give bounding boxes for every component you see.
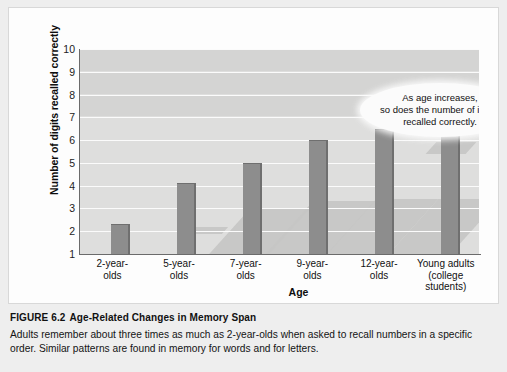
x-tick-7-year-olds: 7-year- olds xyxy=(212,258,279,306)
gridline-2 xyxy=(79,231,479,232)
bar-2-year-olds[interactable] xyxy=(111,224,130,254)
gridline-9 xyxy=(79,72,479,73)
x-tick-5-year-olds: 5-year- olds xyxy=(146,258,213,306)
y-tick-5: 5 xyxy=(47,158,75,168)
bar-12-year-olds[interactable] xyxy=(375,129,394,254)
y-tick-2: 2 xyxy=(47,226,75,236)
bar-7-year-olds[interactable] xyxy=(243,163,262,254)
x-axis-line xyxy=(79,254,481,255)
figure-title: Age-Related Changes in Memory Span xyxy=(69,312,256,323)
y-tick-1: 1 xyxy=(47,249,75,259)
figure-container: Number of digits recalled correctly 10 9… xyxy=(0,0,507,372)
gridline-6 xyxy=(79,140,479,141)
gridline-4 xyxy=(79,186,479,187)
y-tick-8: 8 xyxy=(47,90,75,100)
x-tick-12-year-olds: 12-year- olds xyxy=(346,258,413,306)
gridline-3 xyxy=(79,208,479,209)
bar-9-year-olds[interactable] xyxy=(309,140,328,254)
figure-number: FIGURE 6.2 xyxy=(10,312,65,323)
annotation-callout-text: As age increases, so does the number of … xyxy=(376,92,479,128)
gridline-5 xyxy=(79,163,479,164)
chart-panel: Number of digits recalled correctly 10 9… xyxy=(8,7,499,304)
x-axis-title: Age xyxy=(53,286,507,298)
gridline-10 xyxy=(79,49,479,50)
y-axis-ticks: 10 9 8 7 6 5 4 3 2 1 xyxy=(45,49,75,254)
y-tick-10: 10 xyxy=(47,44,75,54)
figure-caption: FIGURE 6.2Age-Related Changes in Memory … xyxy=(8,312,499,366)
y-tick-4: 4 xyxy=(47,181,75,191)
x-axis-ticks: 2-year- olds 5-year- olds 7-year- olds 9… xyxy=(79,258,479,306)
y-tick-7: 7 xyxy=(47,112,75,122)
figure-caption-title: FIGURE 6.2Age-Related Changes in Memory … xyxy=(10,312,499,323)
y-tick-3: 3 xyxy=(47,203,75,213)
bar-5-year-olds[interactable] xyxy=(177,183,196,254)
plot-area: As age increases, so does the number of … xyxy=(79,49,479,254)
y-tick-6: 6 xyxy=(47,135,75,145)
figure-caption-body: Adults remember about three times as muc… xyxy=(10,328,480,355)
x-tick-young-adults: Young adults (college students) xyxy=(412,258,479,306)
y-tick-9: 9 xyxy=(47,67,75,77)
plot-band xyxy=(79,49,479,71)
x-tick-9-year-olds: 9-year- olds xyxy=(279,258,346,306)
x-tick-2-year-olds: 2-year- olds xyxy=(79,258,146,306)
y-axis-line xyxy=(79,49,80,255)
